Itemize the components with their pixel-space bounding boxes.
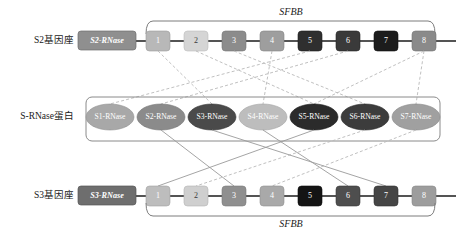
protein-label: S2-RNase [146, 112, 177, 121]
protein-label: S7-RNase [401, 112, 432, 121]
gene-box-bottom-1[interactable]: 1 [146, 186, 170, 206]
protein-row-label: S-RNase蛋白 [20, 110, 74, 121]
protein-ellipses: S1-RNase S2-RNase S3-RNase S4-RNase S5-R… [86, 104, 440, 130]
protein-s5[interactable]: S5-RNase [290, 104, 338, 130]
top-rnase-gene[interactable]: S2-RNase [78, 31, 136, 50]
link-bottom-6 [263, 130, 348, 186]
bottom-interaction-links [158, 130, 416, 186]
gene-box-number: 1 [156, 191, 160, 200]
gene-box-top-3[interactable]: 3 [222, 31, 246, 51]
gene-box-number: 7 [384, 191, 388, 200]
gene-box-bottom-3[interactable]: 3 [222, 186, 246, 206]
protein-label: S6-RNase [350, 112, 381, 121]
bottom-rnase-label: S3-RNase [90, 191, 124, 200]
gene-box-bottom-8[interactable]: 8 [412, 186, 436, 206]
gene-box-number: 6 [346, 191, 350, 200]
protein-label: S3-RNase [197, 112, 228, 121]
gene-box-number: 6 [346, 36, 350, 45]
gene-box-bottom-6[interactable]: 6 [336, 186, 360, 206]
gene-box-number: 8 [422, 36, 426, 45]
protein-label: S5-RNase [299, 112, 330, 121]
gene-box-top-4[interactable]: 4 [260, 31, 284, 51]
top-locus-row: S2基因座 S2-RNase SFBB 1 2 [34, 6, 456, 51]
gene-box-number: 8 [422, 191, 426, 200]
gene-box-bottom-5[interactable]: 5 [298, 186, 322, 206]
link-bottom-2 [196, 130, 365, 186]
gene-box-number: 2 [194, 36, 198, 45]
link-top-8a [416, 51, 424, 104]
diagram-canvas: S2基因座 S2-RNase SFBB 1 2 [0, 0, 469, 232]
bottom-locus-row: S3基因座 S3-RNase 1 2 3 [34, 186, 456, 229]
link-top-3 [234, 51, 365, 104]
bottom-row-label: S3基因座 [34, 189, 74, 200]
gene-box-top-6[interactable]: 6 [336, 31, 360, 51]
gene-box-top-7[interactable]: 7 [374, 31, 398, 51]
gene-box-number: 2 [194, 191, 198, 200]
protein-s3[interactable]: S3-RNase [188, 104, 236, 130]
link-bottom-4 [272, 130, 416, 186]
protein-s2[interactable]: S2-RNase [137, 104, 185, 130]
gene-box-top-8[interactable]: 8 [412, 31, 436, 51]
link-top-8b [314, 51, 424, 104]
gene-box-bottom-4[interactable]: 4 [260, 186, 284, 206]
srnase-sfbb-diagram: S2基因座 S2-RNase SFBB 1 2 [0, 0, 469, 232]
gene-box-top-1[interactable]: 1 [146, 31, 170, 51]
gene-box-number: 5 [308, 191, 312, 200]
link-top-1 [158, 51, 212, 104]
gene-box-number: 4 [270, 191, 274, 200]
top-row-label: S2基因座 [34, 34, 74, 45]
protein-label: S4-RNase [248, 112, 279, 121]
gene-box-bottom-2[interactable]: 2 [184, 186, 208, 206]
gene-box-number: 3 [232, 191, 236, 200]
protein-s6[interactable]: S6-RNase [341, 104, 389, 130]
top-sfbb-label: SFBB [279, 6, 302, 17]
link-bottom-7 [212, 130, 386, 186]
link-top-5 [110, 51, 310, 104]
protein-label: S1-RNase [95, 112, 126, 121]
link-bottom-3 [161, 130, 234, 186]
gene-box-top-5[interactable]: 5 [298, 31, 322, 51]
gene-box-number: 5 [308, 36, 312, 45]
link-bottom-1 [158, 130, 314, 186]
protein-row: S-RNase蛋白 S1-RNase S2-RNase S3-RNase [20, 97, 440, 141]
protein-s4[interactable]: S4-RNase [239, 104, 287, 130]
protein-s1[interactable]: S1-RNase [86, 104, 134, 130]
top-interaction-links [110, 51, 424, 104]
protein-s7[interactable]: S7-RNase [392, 104, 440, 130]
bottom-rnase-gene[interactable]: S3-RNase [78, 186, 136, 205]
top-rnase-label: S2-RNase [90, 36, 124, 45]
gene-box-number: 7 [384, 36, 388, 45]
gene-box-number: 3 [232, 36, 236, 45]
gene-box-number: 4 [270, 36, 274, 45]
gene-box-top-2[interactable]: 2 [184, 31, 208, 51]
link-top-4 [263, 51, 272, 104]
link-top-2 [196, 51, 314, 104]
gene-box-bottom-7[interactable]: 7 [374, 186, 398, 206]
bottom-sfbb-label: SFBB [279, 218, 302, 229]
gene-box-number: 1 [156, 36, 160, 45]
